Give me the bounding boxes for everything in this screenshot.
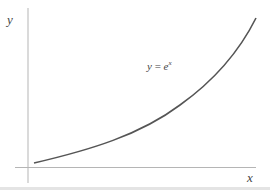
y-axis-label: y — [7, 13, 13, 26]
bottom-border — [0, 187, 270, 190]
eq-equals: = — [155, 60, 161, 72]
eq-lhs: y — [147, 60, 152, 72]
exponential-curve — [34, 18, 256, 163]
exponential-plot — [0, 0, 270, 190]
curve-equation-label: y = ex — [147, 60, 172, 72]
x-axis-label: x — [247, 171, 253, 184]
eq-exponent: x — [169, 59, 172, 67]
